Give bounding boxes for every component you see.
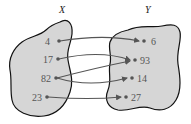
set-x-label: X [58,4,66,15]
x-element-4: 4 [45,36,50,47]
x-element-23: 23 [32,92,42,103]
y-dot-27 [124,95,128,99]
y-dot-6 [142,39,146,43]
y-dot-14 [130,76,134,80]
y-element-6: 6 [151,36,156,47]
y-dot-93 [133,58,137,62]
function-mapping-diagram: X Y 4 17 82 23 6 93 14 27 [0,0,191,124]
x-element-17: 17 [43,54,53,65]
set-y-label: Y [145,4,152,15]
y-element-93: 93 [140,55,150,66]
y-element-27: 27 [131,92,141,103]
y-element-14: 14 [137,73,147,84]
x-element-82: 82 [41,73,51,84]
